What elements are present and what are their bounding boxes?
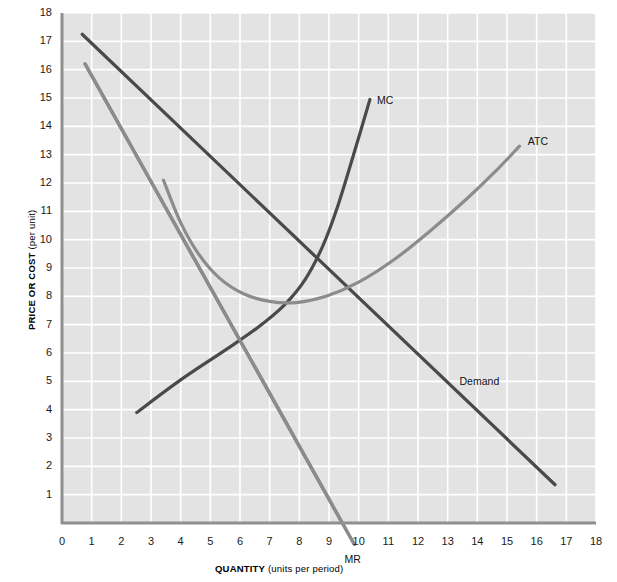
y-axis-tick-label: 17: [26, 34, 52, 46]
y-axis-tick-label: 4: [26, 403, 52, 415]
x-axis-tick-label: 2: [110, 535, 132, 547]
y-axis-tick-label: 18: [26, 6, 52, 18]
x-axis-tick-label: 6: [229, 535, 251, 547]
x-axis-tick-label: 12: [407, 535, 429, 547]
x-axis-tick-label: 3: [140, 535, 162, 547]
mr-curve-label: MR: [344, 553, 360, 565]
y-axis-tick-label: 2: [26, 459, 52, 471]
y-axis-title: PRICE OR COST (per unit): [26, 210, 37, 330]
x-axis-tick-label: 0: [51, 535, 73, 547]
x-axis-tick-label: 4: [170, 535, 192, 547]
y-axis-tick-label: 13: [26, 148, 52, 160]
x-axis-tick-label: 8: [288, 535, 310, 547]
x-axis-tick-label: 13: [437, 535, 459, 547]
x-axis-tick-label: 10: [348, 535, 370, 547]
y-axis-tick-label: 3: [26, 431, 52, 443]
x-axis-title-bold: QUANTITY: [215, 563, 265, 574]
x-axis-tick-label: 16: [526, 535, 548, 547]
x-axis-tick-label: 9: [318, 535, 340, 547]
x-axis-tick-label: 11: [377, 535, 399, 547]
y-axis-tick-label: 1: [26, 488, 52, 500]
x-axis-tick-label: 18: [585, 535, 607, 547]
y-axis-tick-label: 15: [26, 91, 52, 103]
x-axis-tick-label: 5: [199, 535, 221, 547]
y-axis-tick-label: 16: [26, 63, 52, 75]
atc-curve-label: ATC: [528, 135, 548, 147]
y-axis-title-unit: (per unit): [26, 210, 37, 253]
x-axis-tick-label: 7: [259, 535, 281, 547]
x-axis-tick-label: 14: [466, 535, 488, 547]
y-axis-tick-label: 6: [26, 346, 52, 358]
economics-cost-curve-chart: 1234567891011121314151617180123456789101…: [0, 0, 617, 582]
x-axis-tick-label: 1: [81, 535, 103, 547]
y-axis-tick-label: 14: [26, 119, 52, 131]
y-axis-title-bold: PRICE OR COST: [26, 252, 37, 330]
plot-area: [0, 0, 617, 582]
x-axis-title: QUANTITY (units per period): [215, 563, 343, 574]
y-axis-tick-label: 5: [26, 374, 52, 386]
mc-curve-label: MC: [377, 94, 393, 106]
x-axis-tick-label: 17: [555, 535, 577, 547]
demand-curve-label: Demand: [460, 375, 500, 387]
y-axis-tick-label: 12: [26, 176, 52, 188]
x-axis-tick-label: 15: [496, 535, 518, 547]
x-axis-title-unit: (units per period): [265, 563, 343, 574]
